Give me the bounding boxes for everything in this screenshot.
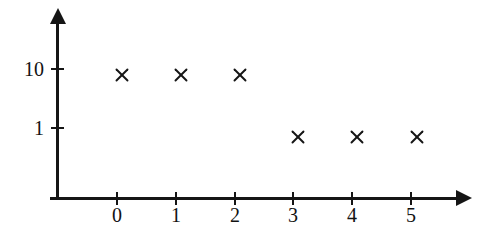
data-point-x-marker [291, 130, 305, 144]
data-point-x-marker [115, 68, 129, 82]
scatter-plot-figure: 012345 101 [0, 0, 496, 248]
y-axis-tick [51, 68, 64, 70]
x-axis-line [50, 197, 460, 200]
x-axis-tick-label: 4 [332, 204, 372, 226]
x-axis-tick-label: 0 [97, 204, 137, 226]
x-axis-arrow-icon [456, 190, 472, 206]
data-point-x-marker [410, 130, 424, 144]
x-axis-tick-label: 2 [215, 204, 255, 226]
data-point-x-marker [233, 68, 247, 82]
data-point-x-marker [174, 68, 188, 82]
y-axis-line [56, 20, 59, 200]
y-axis-tick-label: 1 [0, 117, 44, 139]
y-axis-tick-label: 10 [0, 58, 44, 80]
x-axis-tick-label: 3 [273, 204, 313, 226]
data-point-x-marker [350, 130, 364, 144]
x-axis-tick-label: 1 [156, 204, 196, 226]
y-axis-tick [51, 127, 64, 129]
x-axis-tick-label: 5 [391, 204, 431, 226]
y-axis-arrow-icon [50, 8, 66, 24]
